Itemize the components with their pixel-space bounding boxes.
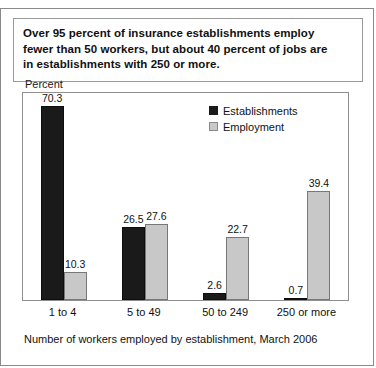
bar-establishments-1 [122, 227, 145, 300]
title-line-1: Over 95 percent of insurance establishme… [23, 26, 353, 42]
bar-value-label: 10.3 [58, 258, 93, 270]
bar-employment-0 [64, 272, 87, 300]
chart-page: Over 95 percent of insurance establishme… [0, 0, 376, 368]
chart-title-box: Over 95 percent of insurance establishme… [13, 18, 363, 82]
x-axis-category-labels: 1 to 45 to 4950 to 249250 or more [22, 306, 349, 324]
bar-group: 0.739.4 [267, 93, 348, 300]
x-axis-caption: Number of workers employed by establishm… [24, 333, 317, 345]
bars-area: 70.310.326.527.62.622.70.739.4 [23, 93, 348, 300]
x-axis-label-1: 5 to 49 [103, 306, 184, 318]
bar-group: 70.310.3 [23, 93, 104, 300]
bar-value-label: 39.4 [301, 177, 336, 189]
bar-value-label: 70.3 [35, 92, 70, 104]
x-axis-label-0: 1 to 4 [22, 306, 103, 318]
bar-employment-2 [226, 237, 249, 300]
bar-group: 26.527.6 [104, 93, 185, 300]
title-line-3: in establishments with 250 or more. [23, 57, 353, 73]
bar-establishments-2 [203, 293, 226, 300]
title-line-2: fewer than 50 workers, but about 40 perc… [23, 42, 353, 58]
bar-value-label: 22.7 [220, 223, 255, 235]
bar-employment-1 [145, 224, 168, 300]
y-axis-label: Percent [25, 78, 63, 90]
chart-title: Over 95 percent of insurance establishme… [23, 26, 353, 73]
bar-establishments-0 [41, 106, 64, 300]
x-axis-label-2: 50 to 249 [185, 306, 266, 318]
x-axis-label-3: 250 or more [266, 306, 347, 318]
plot-frame: Establishments Employment 70.310.326.527… [22, 92, 349, 301]
bar-value-label: 27.6 [139, 210, 174, 222]
bar-group: 2.622.7 [186, 93, 267, 300]
bar-employment-3 [307, 191, 330, 300]
bar-establishments-3 [284, 298, 307, 300]
